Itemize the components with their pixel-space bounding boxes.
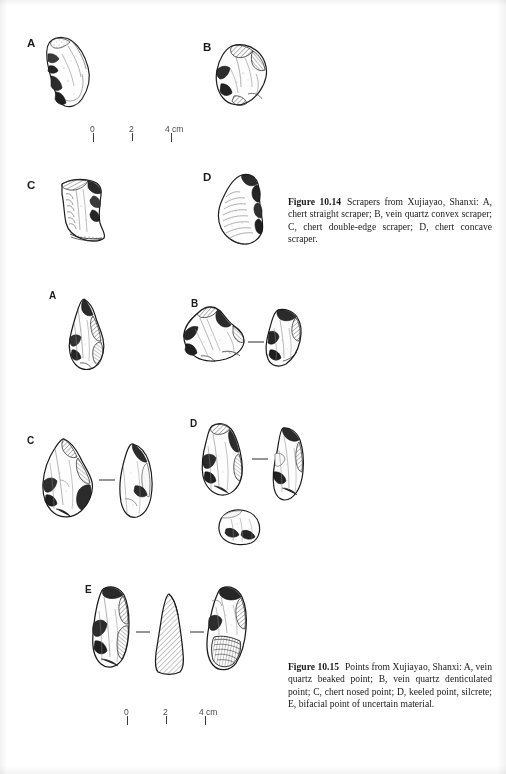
scale-number-0: 0: [90, 124, 95, 134]
specimen-label-f14-b: B: [203, 42, 212, 54]
artifact-drawing-f14-a: [38, 34, 100, 112]
specimen-label-f14-d: D: [203, 172, 212, 184]
specimen-label-f14-c: C: [27, 180, 36, 192]
artifact-drawing-f15-d-view2: [265, 424, 313, 504]
scale-tick-4: [205, 716, 206, 725]
artifact-drawing-f15-d-view1: [196, 420, 254, 502]
scale-number-2: 2: [163, 707, 168, 717]
artifact-drawing-f15-c-view2: [113, 441, 159, 521]
scan-edge-shadow-right: [497, 0, 506, 774]
figure-number-10-14: Figure 10.14: [288, 196, 341, 207]
scale-number-0: 0: [124, 707, 129, 717]
artifact-drawing-f14-c: [52, 176, 114, 248]
artifact-drawing-f14-b: [212, 42, 274, 110]
scale-tick-0: [93, 133, 94, 142]
specimen-label-f15-a: A: [49, 291, 56, 301]
artifact-drawing-f15-a: [63, 296, 115, 374]
artifact-drawing-f15-e-view1: [87, 583, 137, 673]
artifact-drawing-f15-e-view3: [202, 583, 254, 675]
figure-number-10-15: Figure 10.15: [288, 661, 339, 672]
scale-number-2: 2: [129, 124, 134, 134]
scanned-page: A: [0, 0, 506, 774]
figure-caption-10-14: Figure 10.14Scrapers from Xujiayao, Shan…: [288, 196, 492, 246]
scale-tick-4: [171, 133, 172, 142]
artifact-drawing-f15-b-view1: [177, 302, 251, 374]
scale-bar-figure-10-14: 0 2 4 cm: [93, 127, 173, 149]
scan-edge-shadow-left: [0, 0, 7, 774]
figure-caption-10-15: Figure 10.15Points from Xujiayao, Shanxi…: [288, 661, 492, 711]
scale-bar-figure-10-15: 0 2 4 cm: [127, 710, 207, 732]
scale-number-4cm: 4 cm: [165, 124, 183, 134]
specimen-label-f15-c: C: [27, 436, 34, 446]
artifact-drawing-f14-d: [212, 171, 276, 257]
artifact-drawing-f15-d-view3: [213, 507, 265, 547]
scan-edge-shadow-top: [0, 0, 506, 6]
specimen-label-f15-d: D: [190, 419, 197, 429]
scan-edge-shadow-bottom: [0, 766, 506, 774]
specimen-label-f15-b: B: [191, 299, 198, 309]
scale-tick-2: [132, 133, 133, 141]
scale-number-4cm: 4 cm: [199, 707, 217, 717]
artifact-drawing-f15-b-view2: [262, 306, 308, 372]
specimen-label-f15-e: E: [85, 585, 92, 595]
scale-tick-2: [166, 716, 167, 724]
artifact-drawing-f15-e-view2-profile: [148, 591, 192, 677]
scale-tick-0: [127, 716, 128, 725]
artifact-drawing-f15-c-view1: [38, 435, 100, 523]
specimen-label-f14-a: A: [27, 38, 36, 50]
